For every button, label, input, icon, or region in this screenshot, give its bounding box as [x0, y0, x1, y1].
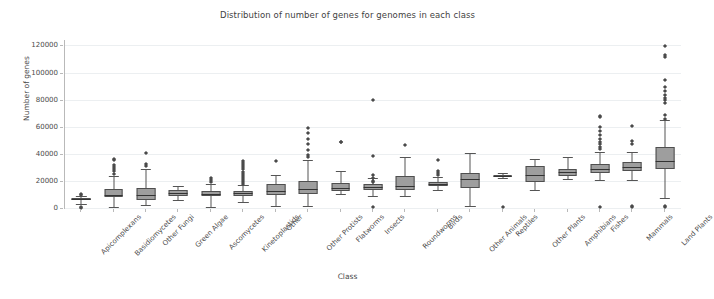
- box-plot-group[interactable]: [357, 40, 389, 208]
- box-rect: [655, 147, 674, 169]
- median-line: [331, 188, 350, 189]
- box-plot-group[interactable]: [97, 40, 129, 208]
- whisker-cap: [562, 157, 572, 158]
- box-plot-group[interactable]: [454, 40, 486, 208]
- x-tick-label: Green Algae: [194, 213, 230, 249]
- box-plot-group[interactable]: [260, 40, 292, 208]
- whisker-cap: [595, 180, 605, 181]
- whisker-cap: [141, 169, 151, 170]
- x-axis-tick-labels: ApicomplexansBasidiomycetesOther FungiGr…: [64, 213, 680, 273]
- box-plot-group[interactable]: [649, 40, 681, 208]
- whisker-cap: [206, 207, 216, 208]
- box-plot-group[interactable]: [227, 40, 259, 208]
- box-rect: [331, 183, 350, 191]
- whisker-cap: [433, 190, 443, 191]
- box-plot-group[interactable]: [65, 40, 97, 208]
- median-line: [299, 189, 318, 190]
- outlier-point: [306, 131, 310, 135]
- outlier-point: [371, 154, 375, 158]
- median-line: [655, 161, 674, 162]
- x-tick-mark: [307, 209, 308, 212]
- x-tick-mark: [210, 209, 211, 212]
- box-plot-group[interactable]: [486, 40, 518, 208]
- box-plot-group[interactable]: [584, 40, 616, 208]
- median-line: [428, 184, 447, 185]
- outlier-point: [403, 143, 407, 147]
- y-axis-tick-labels: 020000400006000080000100000120000: [0, 40, 58, 208]
- whisker-cap: [271, 175, 281, 176]
- whisker-cap: [400, 196, 410, 197]
- whisker-cap: [562, 179, 572, 180]
- box-plot-group[interactable]: [292, 40, 324, 208]
- x-tick-mark: [372, 209, 373, 212]
- box-plot-group[interactable]: [422, 40, 454, 208]
- x-tick-mark: [145, 209, 146, 212]
- whisker-cap: [173, 200, 183, 201]
- y-tick-mark: [60, 73, 63, 74]
- outlier-point: [630, 139, 634, 143]
- x-tick-mark: [113, 209, 114, 212]
- x-tick-mark: [469, 209, 470, 212]
- box-plot-group[interactable]: [162, 40, 194, 208]
- box-plot-group[interactable]: [551, 40, 583, 208]
- x-tick-mark: [177, 209, 178, 212]
- whisker-cap: [303, 206, 313, 207]
- outlier-point: [598, 129, 602, 133]
- x-tick-mark: [242, 209, 243, 212]
- whisker-cap: [530, 190, 540, 191]
- whisker-cap: [660, 198, 670, 199]
- whisker-cap: [498, 178, 508, 179]
- chart-title: Distribution of number of genes for geno…: [0, 10, 695, 20]
- x-tick-label: Other Plants: [551, 213, 587, 249]
- y-tick-label: 40000: [36, 150, 58, 158]
- x-tick-mark: [599, 209, 600, 212]
- median-line: [591, 169, 610, 170]
- median-line: [104, 195, 123, 196]
- whisker-cap: [465, 153, 475, 154]
- median-line: [493, 176, 512, 177]
- outlier-point: [663, 78, 667, 82]
- whisker-cap: [238, 202, 248, 203]
- y-tick-label: 60000: [36, 123, 58, 131]
- whisker-cap: [530, 159, 540, 160]
- box-rect: [266, 184, 285, 195]
- median-line: [623, 167, 642, 168]
- y-tick-mark: [60, 100, 63, 101]
- box-plot-group[interactable]: [195, 40, 227, 208]
- y-tick-mark: [60, 208, 63, 209]
- outlier-point: [338, 140, 342, 144]
- y-tick-mark: [60, 181, 63, 182]
- box-plot-group[interactable]: [324, 40, 356, 208]
- y-tick-label: 120000: [31, 41, 58, 49]
- median-line: [234, 193, 253, 194]
- outlier-point: [274, 159, 278, 163]
- median-line: [72, 199, 91, 200]
- box-plot-group[interactable]: [389, 40, 421, 208]
- box-rect: [299, 181, 318, 194]
- x-tick-label: Ascomycetes: [227, 213, 265, 251]
- plot-area: [64, 40, 681, 209]
- outlier-point: [663, 89, 667, 93]
- x-tick-mark: [437, 209, 438, 212]
- outlier-point: [663, 43, 667, 47]
- x-tick-mark: [664, 209, 665, 212]
- x-tick-mark: [567, 209, 568, 212]
- x-tick-mark: [534, 209, 535, 212]
- outlier-point: [306, 137, 310, 141]
- box-plot-group[interactable]: [616, 40, 648, 208]
- x-tick-label: Mammals: [645, 213, 675, 243]
- median-line: [137, 195, 156, 196]
- outlier-point: [598, 133, 602, 137]
- box-plot-group[interactable]: [130, 40, 162, 208]
- median-line: [266, 191, 285, 192]
- outlier-point: [630, 204, 634, 208]
- y-tick-mark: [60, 127, 63, 128]
- median-line: [526, 175, 545, 176]
- median-line: [364, 187, 383, 188]
- outlier-point: [306, 125, 310, 129]
- box-plot-group[interactable]: [519, 40, 551, 208]
- median-line: [461, 179, 480, 180]
- outlier-point: [663, 113, 667, 117]
- x-tick-mark: [404, 209, 405, 212]
